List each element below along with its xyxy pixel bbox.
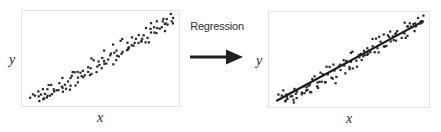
regression-caption: Regression xyxy=(186,20,248,32)
scatter-point xyxy=(363,50,365,52)
scatter-point xyxy=(150,31,152,33)
scatter-point xyxy=(65,88,67,90)
scatter-point xyxy=(401,32,403,34)
scatter-point xyxy=(401,37,403,39)
scatter-point xyxy=(116,55,118,57)
scatter-point xyxy=(286,96,288,98)
scatter-point xyxy=(69,89,71,91)
scatter-point xyxy=(29,97,31,99)
scatter-point xyxy=(109,54,111,56)
scatter-point xyxy=(121,38,123,40)
scatter-point xyxy=(144,41,146,43)
scatter-point xyxy=(42,88,44,90)
scatter-point xyxy=(317,87,319,89)
left-x-axis-label: x xyxy=(97,111,103,125)
scatter-point xyxy=(389,30,391,32)
scatter-point xyxy=(171,20,173,22)
scatter-point xyxy=(64,84,66,86)
scatter-point xyxy=(115,59,117,61)
scatter-point xyxy=(291,95,293,97)
scatter-point xyxy=(74,71,76,73)
right-y-axis-label: y xyxy=(256,54,262,68)
scatter-point xyxy=(406,35,408,37)
scatter-point xyxy=(293,101,295,103)
right-scatter-plot-with-fit xyxy=(269,12,431,109)
scatter-point xyxy=(112,43,114,45)
scatter-point xyxy=(127,48,129,50)
scatter-point xyxy=(388,36,390,38)
scatter-point xyxy=(281,95,283,97)
scatter-point xyxy=(44,93,46,95)
scatter-point xyxy=(367,52,369,54)
scatter-point xyxy=(405,37,407,39)
scatter-point xyxy=(46,95,48,97)
scatter-point xyxy=(351,51,353,53)
scatter-point xyxy=(50,84,52,86)
scatter-point xyxy=(335,76,337,78)
scatter-point xyxy=(77,71,79,73)
scatter-point xyxy=(361,59,363,61)
scatter-point xyxy=(132,45,134,47)
scatter-point xyxy=(392,35,394,37)
scatter-point xyxy=(105,63,107,65)
scatter-point xyxy=(170,13,172,15)
scatter-point xyxy=(98,64,100,66)
scatter-point xyxy=(97,60,99,62)
scatter-point xyxy=(295,93,297,95)
scatter-point xyxy=(113,52,115,54)
scatter-point xyxy=(148,41,150,43)
scatter-point xyxy=(57,89,59,91)
scatter-point xyxy=(362,55,364,57)
scatter-point xyxy=(84,74,86,76)
scatter-point xyxy=(120,40,122,42)
scatter-point xyxy=(410,25,412,27)
scatter-point xyxy=(43,97,45,99)
regression-figure: y x Regression y x xyxy=(0,0,441,132)
scatter-point xyxy=(329,66,331,68)
scatter-point xyxy=(135,38,137,40)
scatter-point xyxy=(375,38,377,40)
scatter-point xyxy=(48,84,50,86)
scatter-point xyxy=(164,30,166,32)
scatter-point xyxy=(69,77,71,79)
scatter-point xyxy=(395,40,397,42)
scatter-point xyxy=(87,71,89,73)
scatter-point xyxy=(374,51,376,53)
scatter-point xyxy=(128,46,130,48)
scatter-point xyxy=(372,45,374,47)
scatter-point xyxy=(355,60,357,62)
scatter-point xyxy=(292,99,294,101)
scatter-point xyxy=(141,38,143,40)
scatter-point xyxy=(69,85,71,87)
right-scatter-panel: y x xyxy=(246,0,441,132)
scatter-point xyxy=(310,91,312,93)
scatter-point xyxy=(55,89,57,91)
right-plot-frame xyxy=(268,11,430,108)
scatter-point xyxy=(318,81,320,83)
scatter-point xyxy=(67,80,69,82)
scatter-point xyxy=(103,63,105,65)
scatter-point xyxy=(352,67,354,69)
scatter-point xyxy=(358,56,360,58)
scatter-point xyxy=(87,66,89,68)
scatter-point xyxy=(301,93,303,95)
scatter-point xyxy=(379,41,381,43)
scatter-point xyxy=(396,30,398,32)
scatter-point xyxy=(122,51,124,53)
scatter-point xyxy=(90,73,92,75)
scatter-point xyxy=(338,65,340,67)
scatter-point xyxy=(414,22,416,24)
scatter-point xyxy=(120,53,122,55)
scatter-point xyxy=(290,92,292,94)
scatter-point xyxy=(348,68,350,70)
scatter-point xyxy=(422,15,424,17)
scatter-point xyxy=(49,95,51,97)
scatter-point xyxy=(134,42,136,44)
scatter-point xyxy=(303,92,305,94)
scatter-point xyxy=(131,36,133,38)
scatter-point xyxy=(319,72,321,74)
scatter-point xyxy=(378,36,380,38)
scatter-point xyxy=(153,31,155,33)
scatter-point xyxy=(366,47,368,49)
scatter-point xyxy=(325,81,327,83)
